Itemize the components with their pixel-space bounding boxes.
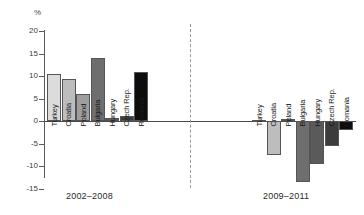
group-period-label: 2002–2008 bbox=[66, 191, 113, 201]
y-axis-tick bbox=[39, 99, 44, 100]
bar-hungary[interactable] bbox=[310, 121, 324, 164]
y-axis-line bbox=[44, 30, 45, 178]
y-axis-tick bbox=[39, 76, 44, 77]
y-axis-tick-label-wrap: -10 bbox=[0, 162, 38, 170]
bar-category-label: Hungary bbox=[108, 99, 116, 127]
bar-category-label: Czech Rep. bbox=[328, 88, 336, 126]
y-axis-tick bbox=[39, 189, 44, 190]
bar-category-label: Bulgaria bbox=[299, 100, 307, 127]
y-axis-tick-label: -5 bbox=[12, 140, 38, 148]
bar-category-label: Poland bbox=[284, 104, 292, 127]
y-axis-tick-label: 15 bbox=[12, 50, 38, 58]
bar-category-label: Czech Rep. bbox=[123, 88, 131, 126]
bar-category-label: Romania bbox=[137, 97, 145, 126]
bar-category-label: Hungary bbox=[313, 99, 321, 127]
y-axis-tick-label: 10 bbox=[12, 72, 38, 80]
bar-bulgaria[interactable] bbox=[296, 121, 310, 182]
bar-category-label: Romania bbox=[342, 97, 350, 126]
bar-category-label: Turkey bbox=[255, 104, 263, 126]
y-axis-tick bbox=[39, 54, 44, 55]
bar-category-label: Croatia bbox=[270, 103, 278, 126]
y-axis-tick-label: -10 bbox=[12, 162, 38, 170]
y-axis-tick-label-wrap: 5 bbox=[0, 95, 38, 103]
chart-container: % 20151050-5-10-15 TurkeyCroatiaPolandBu… bbox=[0, 0, 364, 215]
y-axis-tick-label: 20 bbox=[12, 27, 38, 35]
y-axis-tick-label-wrap: 15 bbox=[0, 50, 38, 58]
y-axis-tick-label-wrap: 20 bbox=[0, 27, 38, 35]
y-axis-unit-label: % bbox=[34, 8, 41, 17]
y-axis-tick-label-wrap: 0 bbox=[0, 117, 38, 125]
bar-category-label: Croatia bbox=[65, 103, 73, 126]
y-axis-tick-label-wrap: -15 bbox=[0, 185, 38, 193]
y-axis-tick bbox=[39, 31, 44, 32]
y-axis-tick bbox=[39, 144, 44, 145]
period-divider bbox=[190, 24, 191, 188]
bar-category-label: Bulgaria bbox=[94, 100, 102, 127]
group-period-label: 2009–2011 bbox=[263, 191, 309, 201]
bar-category-label: Turkey bbox=[50, 104, 58, 126]
y-axis-tick-label-wrap: 10 bbox=[0, 72, 38, 80]
y-axis-tick-label: 5 bbox=[12, 95, 38, 103]
y-axis-tick bbox=[39, 166, 44, 167]
y-axis-tick-label: -15 bbox=[12, 185, 38, 193]
y-axis-tick-label: 0 bbox=[12, 117, 38, 125]
bar-category-label: Poland bbox=[79, 104, 87, 127]
y-axis-tick-label-wrap: -5 bbox=[0, 140, 38, 148]
